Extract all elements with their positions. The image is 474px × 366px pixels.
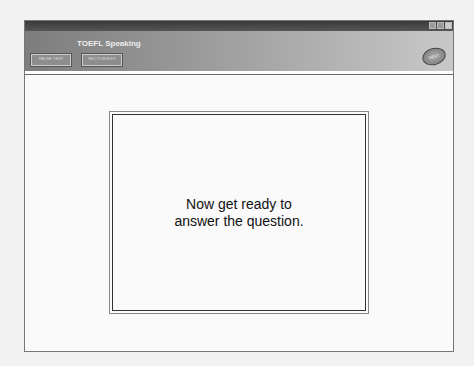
- close-icon[interactable]: [445, 22, 452, 29]
- pause-test-button[interactable]: PAUSE TEST: [31, 54, 71, 66]
- message-panel: Now get ready to answer the question.: [109, 111, 369, 314]
- next-button[interactable]: NEXT: [420, 45, 448, 68]
- section-exit-button[interactable]: SECTION EXIT: [82, 54, 122, 66]
- title-bar: [25, 21, 453, 31]
- message-line-1: Now get ready to: [174, 196, 303, 213]
- instruction-message: Now get ready to answer the question.: [174, 196, 303, 230]
- minimize-icon[interactable]: [429, 22, 436, 29]
- maximize-icon[interactable]: [437, 22, 444, 29]
- app-window: TOEFL Speaking PAUSE TEST SECTION EXIT N…: [24, 20, 454, 352]
- app-title: TOEFL Speaking: [77, 39, 141, 48]
- message-line-2: answer the question.: [174, 213, 303, 230]
- toolbar-header: TOEFL Speaking PAUSE TEST SECTION EXIT N…: [25, 31, 453, 74]
